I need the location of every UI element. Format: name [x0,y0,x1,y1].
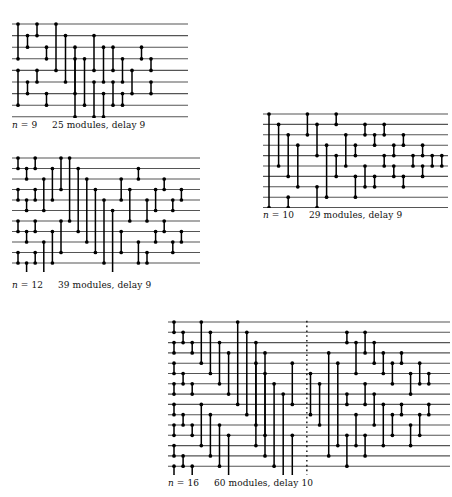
comparator-dot [277,164,281,168]
comparator-dot [181,330,185,334]
comparator-dot [25,198,29,202]
caption-n-label: n = 16 [168,478,199,488]
sorting-network-n16 [168,320,450,475]
comparator-dot [277,123,281,127]
comparator-dot [409,423,413,427]
comparator-dot [54,69,58,73]
comparator-dot [59,251,63,255]
comparator-dot [218,341,222,345]
comparator-dot [119,198,123,202]
comparator-dot [59,156,63,160]
comparator-dot [16,188,20,192]
comparator-dot [33,261,37,265]
comparator-dot [363,123,367,127]
comparator-dot [354,175,358,179]
comparator-dot [363,454,367,458]
comparator-dot [344,164,348,168]
comparator-dot [190,423,194,427]
comparator-dot [42,177,46,181]
comparator-dot [137,261,141,265]
comparator-dot [336,444,340,448]
comparator-dot [59,219,63,223]
comparator-dot [254,341,258,345]
comparator-dot [83,103,87,107]
comparator-dot [334,154,338,158]
comparator-dot [354,341,358,345]
comparator-dot [35,69,39,73]
comparator-dot [162,219,166,223]
comparator-dot [263,351,267,355]
comparator-dot [345,433,349,437]
comparator-dot [227,433,231,437]
caption-gap [294,210,309,220]
comparator-dot [92,69,96,73]
comparator-dot [172,413,176,417]
comparator-dot [254,444,258,448]
comparator-dot [354,195,358,199]
comparator-dot [76,230,80,234]
comparator-dot [382,154,386,158]
comparator-dot [68,219,72,223]
comparator-dot [382,123,386,127]
sorting-network-n16-canvas [168,320,450,475]
comparator-dot [154,188,158,192]
comparator-dot [45,57,49,61]
comparator-dot [26,92,30,96]
comparator-dot [111,80,115,84]
caption-n-value: 16 [187,478,199,488]
comparator-dot [181,372,185,376]
comparator-dot [421,154,425,158]
comparator-dot [209,454,213,458]
comparator-dot [309,413,313,417]
comparator-dot [73,57,77,61]
caption-gap [199,478,214,488]
comparator-dot [236,403,240,407]
comparator-dot [334,175,338,179]
sorting-network-n12-canvas [12,156,200,272]
comparator-dot [180,188,184,192]
comparator-dot [345,392,349,396]
comparator-dot [392,154,396,158]
comparator-dot [149,92,153,96]
comparator-dot [102,261,106,265]
comparator-dot [119,251,123,255]
comparator-dot [318,423,322,427]
comparator-dot [409,392,413,396]
comparator-dot [111,45,115,49]
comparator-dot [33,251,37,255]
comparator-dot [263,454,267,458]
comparator-dot [286,195,290,199]
comparator-dot [286,175,290,179]
comparator-dot [227,351,231,355]
comparator-dot [172,423,176,427]
comparator-group [172,320,431,475]
comparator-dot [372,361,376,365]
comparator-dot [171,251,175,255]
comparator-dot [16,156,20,160]
comparator-dot [381,403,385,407]
comparator-dot [45,92,49,96]
comparator-dot [286,206,290,208]
comparator-dot [245,330,249,334]
comparator-dot [218,423,222,427]
comparator-dot [54,22,58,26]
comparator-dot [172,341,176,345]
comparator-dot [372,341,376,345]
comparator-dot [373,133,377,137]
comparator-dot [51,198,55,202]
comparator-dot [181,341,185,345]
comparator-dot [102,92,106,96]
comparator-dot [267,206,271,208]
comparator-dot [382,164,386,168]
comparator-dot [327,351,331,355]
comparator-dot [121,57,125,61]
comparator-dot [181,454,185,458]
comparator-dot [162,177,166,181]
comparator-dot [334,123,338,127]
comparator-dot [381,444,385,448]
comparator-dot [290,433,294,437]
comparator-dot [16,219,20,223]
comparator-dot [64,34,68,38]
sorting-network-n9 [12,22,188,118]
comparator-dot [172,433,176,437]
